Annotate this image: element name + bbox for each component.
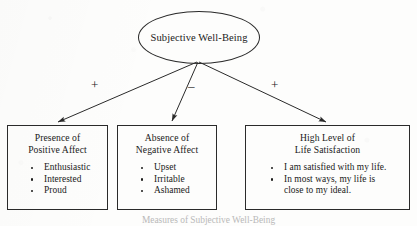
- figure-caption: Measures of Subjective Well-Being: [0, 215, 417, 225]
- list-item-line-1: In most ways, my life is: [284, 174, 375, 184]
- node-subjective-well-being: Subjective Well-Being: [138, 11, 260, 64]
- box-2-heading-line-1: Absence of: [145, 132, 189, 143]
- list-item: Irritable: [140, 174, 216, 185]
- edge-sign-right: +: [271, 78, 278, 91]
- box-2-heading: Absence of Negative Affect: [118, 132, 216, 155]
- box-3-list: I am satisfied with my life. In most way…: [246, 162, 409, 196]
- box-high-level-of-life-satisfaction: High Level of Life Satisfaction I am sat…: [245, 125, 410, 210]
- box-1-heading: Presence of Positive Affect: [8, 132, 107, 155]
- box-absence-of-negative-affect: Absence of Negative Affect Upset Irritab…: [117, 125, 217, 210]
- list-item: I am satisfied with my life.: [270, 162, 409, 173]
- diagram-canvas: Subjective Well-Being + – + Presence of …: [0, 0, 417, 226]
- box-1-list: Enthusiastic Interested Proud: [8, 162, 107, 196]
- box-3-heading-line-2: Life Satisfaction: [295, 144, 360, 155]
- box-1-heading-line-1: Presence of: [35, 132, 81, 143]
- edge-sign-middle: –: [188, 79, 195, 92]
- edge-sign-left: +: [91, 78, 98, 91]
- box-2-list: Upset Irritable Ashamed: [118, 162, 216, 196]
- edge-line-left: [58, 62, 197, 122]
- box-3-heading: High Level of Life Satisfaction: [246, 132, 409, 155]
- box-2-heading-line-2: Negative Affect: [136, 144, 198, 155]
- list-item: Proud: [30, 185, 107, 196]
- box-presence-of-positive-affect: Presence of Positive Affect Enthusiastic…: [7, 125, 108, 210]
- list-item: In most ways, my life is close to my ide…: [270, 174, 409, 197]
- edge-line-right: [199, 62, 326, 122]
- list-item: Interested: [30, 174, 107, 185]
- list-item: Ashamed: [140, 185, 216, 196]
- list-item: Enthusiastic: [30, 162, 107, 173]
- list-item-line-2: close to my ideal.: [284, 185, 409, 196]
- node-label: Subjective Well-Being: [151, 32, 248, 43]
- list-item: Upset: [140, 162, 216, 173]
- box-1-heading-line-2: Positive Affect: [28, 144, 87, 155]
- box-3-heading-line-1: High Level of: [300, 132, 355, 143]
